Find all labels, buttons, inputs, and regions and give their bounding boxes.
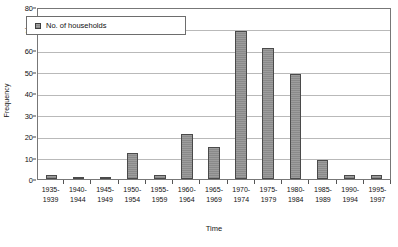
x-axis-tick-label-line2: 1984 [282, 195, 309, 205]
y-axis-tick-label: 10 [25, 154, 33, 163]
x-axis-tick-label: 1945-1949 [91, 185, 118, 211]
x-axis-tick-cell [228, 180, 255, 184]
y-axis-tick-mark [33, 94, 36, 95]
x-axis-tick-label-line2: 1989 [309, 195, 336, 205]
x-axis-tick-cell [173, 180, 200, 184]
y-axis-tick-mark [33, 158, 36, 159]
bar [208, 147, 219, 179]
x-axis-tick-marks [37, 180, 391, 184]
y-axis-tick-label: 80 [25, 4, 33, 13]
x-axis-tick-label-line1: 1990- [341, 186, 359, 193]
y-axis-tick-mark [33, 180, 36, 181]
bar [100, 177, 111, 179]
y-axis-tick-mark [33, 115, 36, 116]
bar [46, 175, 57, 179]
bar [73, 177, 84, 179]
bar-slot [363, 9, 390, 179]
legend: No. of households [26, 16, 186, 35]
x-axis-tick-label-line2: 1954 [119, 195, 146, 205]
x-axis-tick-label: 1990-1994 [337, 185, 364, 211]
x-axis-tick-label-line1: 1945- [96, 186, 114, 193]
y-axis-tick-mark [33, 137, 36, 138]
bar [262, 48, 273, 179]
y-axis-tick-label: 50 [25, 68, 33, 77]
bar [344, 175, 355, 179]
x-axis-tick-cell [200, 180, 227, 184]
x-axis-tick-label-line1: 1985- [314, 186, 332, 193]
x-axis-tick-cell [364, 180, 391, 184]
x-axis-tick-cell [91, 180, 118, 184]
x-axis-tick-label-line2: 1949 [91, 195, 118, 205]
bar [235, 31, 246, 179]
bar [127, 153, 138, 179]
x-axis-tick-label-line2: 1997 [364, 195, 391, 205]
y-axis-title-text: Frequency [4, 83, 11, 117]
x-axis-tick-label-line1: 1950- [123, 186, 141, 193]
x-axis-tick-label: 1955-1959 [146, 185, 173, 211]
x-axis-tick-label: 1975-1979 [255, 185, 282, 211]
x-axis-tick-label-line1: 1960- [178, 186, 196, 193]
y-axis-tick-label: 20 [25, 133, 33, 142]
x-axis-tick-cell [309, 180, 336, 184]
x-axis-tick-label-line2: 1939 [37, 195, 64, 205]
x-axis-tick-label: 1980-1984 [282, 185, 309, 211]
x-axis-tick-label-line1: 1940- [69, 186, 87, 193]
x-axis-tick-cell [282, 180, 309, 184]
x-axis-tick-label: 1960-1964 [173, 185, 200, 211]
y-axis-tick-label: 30 [25, 111, 33, 120]
x-axis-tick-label-line1: 1955- [151, 186, 169, 193]
y-axis-tick-mark [33, 51, 36, 52]
x-axis-tick-label: 1940-1944 [64, 185, 91, 211]
x-axis-tick-label: 1995-1997 [364, 185, 391, 211]
x-axis-tick-label-line1: 1980- [287, 186, 305, 193]
bar-slot [255, 9, 282, 179]
y-axis-tick-mark [33, 8, 36, 9]
x-axis-tick-label-line2: 1974 [228, 195, 255, 205]
bar-chart: Frequency 01020304050607080 No. of house… [0, 0, 398, 247]
x-axis-tick-label-line2: 1969 [200, 195, 227, 205]
x-axis-tick-label: 1935-1939 [37, 185, 64, 211]
x-axis-tick-label-line2: 1964 [173, 195, 200, 205]
x-axis-tick-labels: 1935-19391940-19441945-19491950-19541955… [37, 185, 391, 211]
x-axis-tick-label-line1: 1935- [42, 186, 60, 193]
bar-slot [200, 9, 227, 179]
x-axis-tick-cell [255, 180, 282, 184]
bar [181, 134, 192, 179]
legend-label: No. of households [46, 21, 106, 30]
x-axis-tick-label-line2: 1944 [64, 195, 91, 205]
x-axis-tick-label: 1985-1989 [309, 185, 336, 211]
x-axis-tick-cell [337, 180, 364, 184]
bar [317, 160, 328, 179]
y-axis-title: Frequency [0, 0, 14, 200]
bar-slot [228, 9, 255, 179]
x-axis-tick-label-line2: 1994 [337, 195, 364, 205]
bar [371, 175, 382, 179]
x-axis-tick-label: 1970-1974 [228, 185, 255, 211]
x-axis-tick-cell [146, 180, 173, 184]
x-axis-tick-cell [37, 180, 64, 184]
y-axis-tick-label: 60 [25, 47, 33, 56]
bar [154, 175, 165, 179]
x-axis-tick-label-line2: 1959 [146, 195, 173, 205]
y-axis-tick-label: 40 [25, 90, 33, 99]
x-axis-tick-label-line1: 1970- [232, 186, 250, 193]
legend-swatch-icon [35, 23, 41, 29]
bar-slot [282, 9, 309, 179]
bar-slot [336, 9, 363, 179]
x-axis-tick-label-line1: 1975- [260, 186, 278, 193]
x-axis-tick-label-line2: 1979 [255, 195, 282, 205]
x-axis-title: Time [37, 224, 391, 233]
x-axis-tick-label: 1950-1954 [119, 185, 146, 211]
x-axis-tick-label: 1965-1969 [200, 185, 227, 211]
x-axis-tick-label-line1: 1995- [368, 186, 386, 193]
x-axis-tick-label-line1: 1965- [205, 186, 223, 193]
bar-slot [309, 9, 336, 179]
x-axis-tick-cell [119, 180, 146, 184]
bar [290, 74, 301, 179]
x-axis-tick-cell [64, 180, 91, 184]
y-axis-tick-mark [33, 72, 36, 73]
